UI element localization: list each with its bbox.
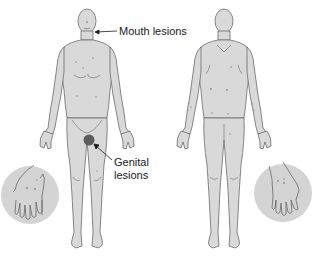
left-hand-palm-inset [1,165,59,224]
mouth-lesions-label-text: Mouth lesions [119,25,187,37]
genital-lesion-marker [84,135,95,146]
body-diagram [0,0,313,256]
right-hand-palm-inset [254,162,312,222]
front-body-figure [40,9,134,248]
genital-lesions-label-line2: lesions [114,169,149,182]
mouth-lesions-label: Mouth lesions [119,25,187,38]
genital-lesions-label: Genital lesions [114,156,149,182]
genital-lesions-label-line1: Genital [114,156,149,169]
